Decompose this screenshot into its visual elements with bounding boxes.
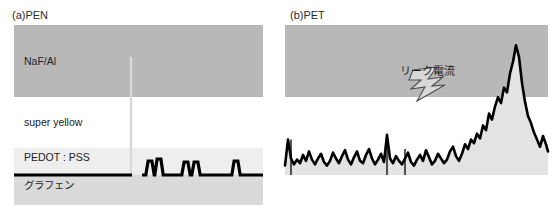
leak-current-bolt-svg	[285, 25, 548, 205]
panel-a-label: (a)PEN	[12, 9, 48, 21]
discharge-spike-a	[130, 57, 132, 175]
panel-a-plot: NaF/Al super yellow PEDOT : PSS グラフェン	[14, 25, 263, 205]
panel-b-label: (b)PET	[290, 9, 325, 21]
panel-a-trace-svg	[14, 25, 263, 205]
panel-b-plot: リーク電流	[285, 25, 548, 205]
panel-pet: (b)PET リーク電流	[278, 0, 556, 217]
panel-pen: (a)PEN NaF/Al super yellow PEDOT : PSS グ…	[0, 0, 278, 217]
signal-trace-a	[14, 159, 263, 175]
figure-container: (a)PEN NaF/Al super yellow PEDOT : PSS グ…	[0, 0, 556, 217]
leak-current-label: リーク電流	[400, 65, 455, 77]
